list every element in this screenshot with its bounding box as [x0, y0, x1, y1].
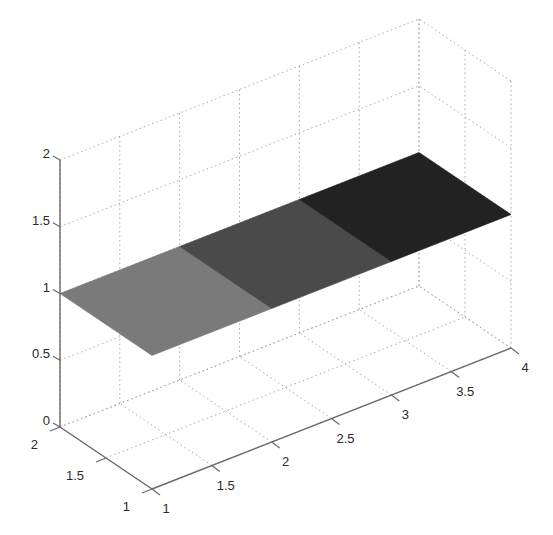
z-tick-label: 2 — [43, 146, 50, 161]
surface — [60, 153, 511, 356]
x-tick-label: 2.5 — [336, 431, 354, 446]
sidewall-gridline-z — [419, 19, 511, 81]
x-tick-label: 1.5 — [217, 478, 235, 493]
z-tick-label: 0 — [43, 413, 50, 428]
z-tick-label: 1 — [43, 280, 50, 295]
y-tick-label: 1 — [123, 499, 130, 514]
x-tick-label: 4 — [521, 360, 528, 375]
y-tick — [50, 427, 60, 431]
floor-gridline-x — [180, 380, 272, 442]
x-tick — [272, 442, 280, 448]
x-tick — [451, 372, 459, 378]
plot-canvas: 11.522.533.5411.5200.511.52 — [0, 0, 553, 535]
z-tick — [53, 356, 60, 360]
surface-plot-3d: 11.522.533.5411.5200.511.52 — [0, 0, 553, 535]
z-tick — [53, 423, 60, 427]
x-tick — [212, 466, 220, 472]
x-tick-label: 1 — [162, 501, 169, 516]
z-tick-label: 1.5 — [32, 213, 50, 228]
x-tick — [152, 489, 160, 495]
y-tick — [96, 458, 106, 462]
x-tick-label: 3.5 — [456, 384, 474, 399]
floor-gridline-x — [240, 357, 332, 419]
sidewall-gridline-z — [419, 286, 511, 348]
x-tick — [391, 395, 399, 401]
x-tick-label: 3 — [402, 407, 409, 422]
y-tick-label: 2 — [31, 437, 38, 452]
floor-gridline-x — [359, 310, 451, 372]
y-tick-label: 1.5 — [66, 468, 84, 483]
x-tick — [332, 419, 340, 425]
x-tick — [511, 348, 519, 354]
z-tick — [53, 156, 60, 160]
z-tick — [53, 290, 60, 294]
z-tick-label: 0.5 — [32, 346, 50, 361]
y-tick — [142, 489, 152, 493]
z-tick — [53, 223, 60, 227]
x-tick-label: 2 — [282, 454, 289, 469]
